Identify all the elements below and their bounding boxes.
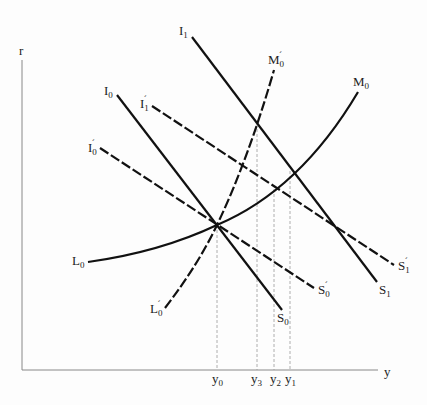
drop-lines <box>217 124 290 370</box>
tick-y3: y3 <box>251 371 263 388</box>
label-s1p: S1´ <box>398 256 410 275</box>
curve-i0p-s0p <box>100 148 314 288</box>
label-m0: M0 <box>353 74 370 91</box>
label-i0: I0 <box>104 83 113 100</box>
curve-l0p-m0p <box>165 70 274 308</box>
tick-y0: y0 <box>212 371 224 388</box>
label-s0p: S0´ <box>318 280 330 299</box>
curve-l0-m0 <box>88 92 358 262</box>
label-i1p: I1´ <box>140 94 149 113</box>
label-l0: L0 <box>72 253 85 270</box>
y-axis-label: r <box>19 43 24 58</box>
label-m0p: M0´ <box>268 50 285 69</box>
diagram-canvas: r y I1 S1 I0 S0 I1´ S1´ I0´ S0´ L0 M0 L0… <box>0 0 427 405</box>
label-s0: S0 <box>277 310 289 327</box>
curve-i1-s1 <box>192 37 377 282</box>
islm-diagram: r y I1 S1 I0 S0 I1´ S1´ I0´ S0´ L0 M0 L0… <box>0 0 427 405</box>
x-axis-label: y <box>384 364 391 379</box>
curve-i1p-s1p <box>152 106 394 265</box>
label-i1: I1 <box>179 23 188 40</box>
label-i0p: I0´ <box>88 138 97 157</box>
tick-y2: y2 <box>270 371 281 388</box>
label-l0p: L0´ <box>150 299 163 318</box>
tick-y1: y1 <box>285 371 296 388</box>
label-s1: S1 <box>379 282 391 299</box>
